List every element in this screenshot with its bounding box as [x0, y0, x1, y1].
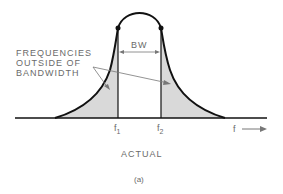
bandwidth-arrowhead-left: [119, 50, 124, 54]
caption: ACTUAL: [121, 149, 163, 159]
bandwidth-arrowhead-right: [155, 50, 160, 54]
axis-arrowhead: [260, 126, 267, 132]
annotation-line-1: FREQUENCIES: [16, 48, 92, 58]
annotation-arrow-left: [93, 67, 108, 88]
f1-label: f1: [114, 123, 120, 137]
f1-label-sub: 1: [117, 128, 121, 135]
axis-label: f: [233, 124, 237, 134]
subfigure-label: (a): [134, 175, 144, 185]
f2-label-sub: 2: [160, 128, 164, 135]
annotation-label: FREQUENCIES OUTSIDE OF BANDWIDTH: [16, 48, 92, 78]
annotation-line-2: OUTSIDE OF: [16, 58, 92, 68]
f1-point-dot: [116, 26, 121, 31]
bandpass-response-diagram: [0, 0, 283, 194]
f2-point-dot: [159, 26, 164, 31]
f2-label: f2: [157, 123, 163, 137]
annotation-arrow-right: [93, 67, 168, 83]
bandwidth-label: BW: [131, 40, 148, 50]
annotation-line-3: BANDWIDTH: [16, 68, 92, 78]
